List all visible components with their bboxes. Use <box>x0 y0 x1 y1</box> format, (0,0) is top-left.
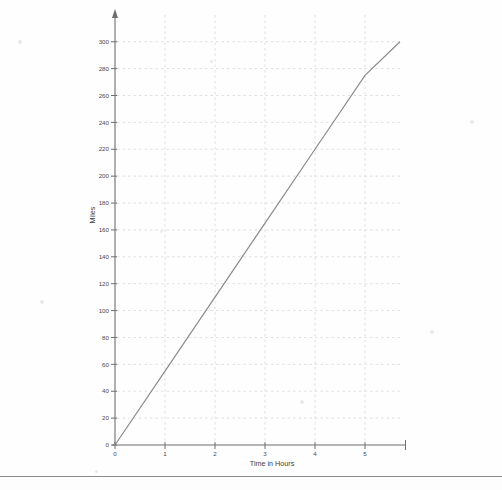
vertical-gridlines <box>165 15 365 443</box>
y-tick-label: 280 <box>99 65 110 72</box>
y-tick-label: 140 <box>99 253 110 260</box>
y-tick-label: 220 <box>99 145 110 152</box>
y-axis-arrow-icon <box>112 9 118 18</box>
x-tick-label: 2 <box>213 450 217 457</box>
worksheet-page: 0204060801001201401601802002202402602803… <box>0 0 502 490</box>
page-bottom-rule <box>0 476 502 477</box>
y-tick-label: 40 <box>102 387 109 394</box>
data-series-line <box>115 42 400 445</box>
x-axis-title: Time in Hours <box>250 459 295 468</box>
x-tick-label: 4 <box>313 450 317 457</box>
y-tick-label: 60 <box>102 361 109 368</box>
y-tick-label: 20 <box>102 414 109 421</box>
x-tick-label: 3 <box>263 450 267 457</box>
x-tick-label: 0 <box>113 450 117 457</box>
y-tick-label: 200 <box>99 172 110 179</box>
x-tick-label: 1 <box>163 450 167 457</box>
y-axis-ticks: 0204060801001201401601802002202402602803… <box>99 38 117 448</box>
horizontal-gridlines <box>117 42 400 418</box>
y-tick-label: 100 <box>99 307 110 314</box>
line-chart: 0204060801001201401601802002202402602803… <box>0 0 502 478</box>
page-footer-strip <box>0 478 502 490</box>
x-axis-ticks: 012345 <box>113 442 367 457</box>
y-tick-label: 240 <box>99 119 110 126</box>
y-tick-label: 300 <box>99 38 110 45</box>
y-tick-label: 260 <box>99 92 110 99</box>
y-tick-label: 180 <box>99 199 110 206</box>
x-tick-label: 5 <box>363 450 367 457</box>
y-tick-label: 120 <box>99 280 110 287</box>
y-tick-label: 0 <box>106 441 110 448</box>
y-axis-title: Miles <box>88 206 97 223</box>
y-tick-label: 160 <box>99 226 110 233</box>
chart-svg: 0204060801001201401601802002202402602803… <box>0 0 502 478</box>
y-tick-label: 80 <box>102 334 109 341</box>
